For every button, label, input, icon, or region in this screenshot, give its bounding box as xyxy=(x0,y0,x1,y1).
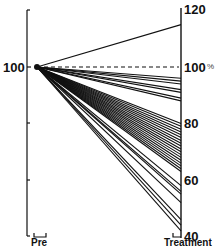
percent-unit-label: % xyxy=(207,63,214,71)
x-label-pre: Pre xyxy=(31,238,47,248)
x-label-treatment: Treatment xyxy=(164,238,212,248)
origin-point xyxy=(34,64,40,70)
left-axis-label-100: 100 xyxy=(3,61,25,74)
left-axis xyxy=(27,10,31,236)
series-lines xyxy=(37,25,181,231)
right-axis-label-60: 60 xyxy=(184,174,198,187)
right-axis-label-100: 100 xyxy=(184,61,206,74)
right-axis-label-80: 80 xyxy=(184,117,198,130)
series-line xyxy=(37,25,181,67)
series-line xyxy=(37,67,181,186)
right-axis-label-120: 120 xyxy=(184,3,206,16)
